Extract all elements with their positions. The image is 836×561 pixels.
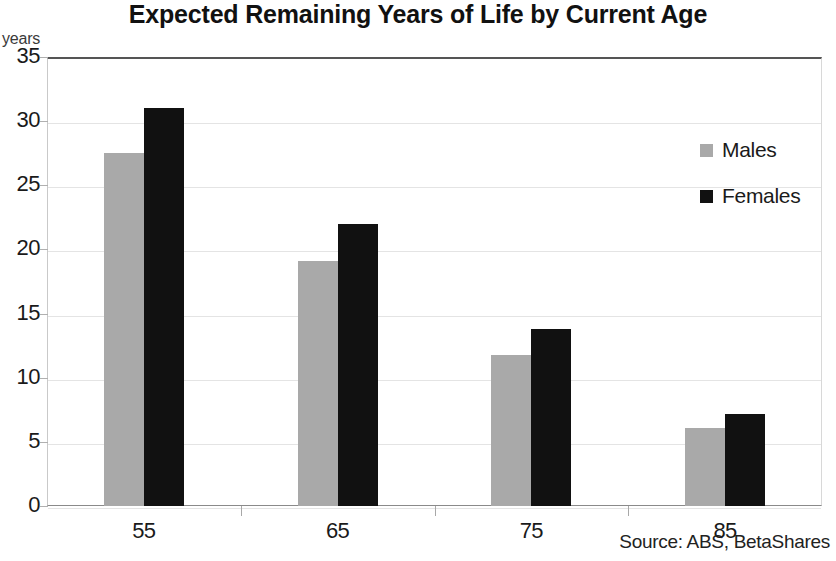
bar-males-65	[298, 261, 338, 506]
bar-males-75	[491, 355, 531, 506]
bar-females-65	[338, 224, 378, 506]
y-tick-label: 0	[0, 492, 40, 518]
chart-legend: Males Females	[700, 138, 800, 230]
legend-swatch-females-icon	[700, 190, 713, 203]
y-tick-label: 20	[0, 235, 40, 261]
legend-swatch-males-icon	[700, 144, 713, 157]
chart-title: Expected Remaining Years of Life by Curr…	[0, 0, 836, 29]
legend-label-males: Males	[722, 138, 777, 162]
legend-item-females: Females	[700, 184, 800, 208]
x-tick-mark	[435, 506, 436, 516]
y-tick-label: 30	[0, 107, 40, 133]
bar-males-85	[685, 428, 725, 506]
y-tick-label: 15	[0, 300, 40, 326]
source-note: Source: ABS, BetaShares	[619, 531, 830, 553]
chart-container: Expected Remaining Years of Life by Curr…	[0, 0, 836, 561]
bar-females-55	[144, 108, 184, 506]
y-tick-label: 25	[0, 171, 40, 197]
bar-females-85	[725, 414, 765, 506]
bar-females-75	[531, 329, 571, 506]
legend-label-females: Females	[722, 184, 800, 208]
y-tick-label: 10	[0, 364, 40, 390]
legend-item-males: Males	[700, 138, 800, 162]
x-tick-label-75: 75	[471, 518, 591, 544]
bars-group	[47, 57, 822, 506]
x-tick-mark	[241, 506, 242, 516]
x-tick-label-65: 65	[278, 518, 398, 544]
x-tick-label-55: 55	[84, 518, 204, 544]
y-tick-label: 35	[0, 43, 40, 69]
x-tick-mark	[628, 506, 629, 516]
y-tick-label: 5	[0, 428, 40, 454]
bar-males-55	[104, 153, 144, 506]
y-tick-mark	[40, 506, 48, 507]
